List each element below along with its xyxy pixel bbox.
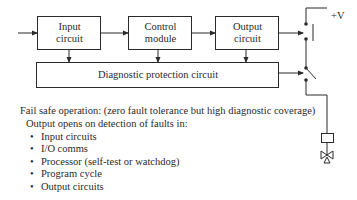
input-circuit-line2: circuit bbox=[38, 33, 101, 45]
input-circuit-label: Input circuit bbox=[38, 21, 101, 45]
contact-dot bbox=[304, 37, 308, 41]
output-circuit-line1: Output bbox=[216, 21, 279, 33]
solenoid-box bbox=[322, 134, 334, 143]
control-module-line1: Control bbox=[129, 21, 192, 33]
output-circuit-line2: circuit bbox=[216, 33, 279, 45]
fault-item: Processor (self-test or watchdog) bbox=[30, 156, 180, 169]
supply-label: +V bbox=[331, 10, 345, 22]
control-module-line2: module bbox=[129, 33, 192, 45]
supply-wire bbox=[306, 8, 327, 24]
valve-actuator bbox=[324, 157, 330, 163]
fail-safe-heading: Fail safe operation: (zero fault toleran… bbox=[20, 105, 315, 118]
fault-list: Input circuits I/O comms Processor (self… bbox=[30, 131, 180, 194]
fault-item: Input circuits bbox=[30, 131, 180, 144]
contact-dot bbox=[304, 66, 308, 70]
fault-item: Program cycle bbox=[30, 168, 180, 181]
control-module-label: Control module bbox=[129, 21, 192, 45]
load-wire bbox=[306, 80, 327, 155]
fault-subheading: Output opens on detection of faults in: bbox=[26, 118, 188, 131]
output-circuit-label: Output circuit bbox=[216, 21, 279, 45]
input-circuit-line1: Input bbox=[38, 21, 101, 33]
contact-dot bbox=[304, 78, 308, 82]
fault-item: I/O comms bbox=[30, 143, 180, 156]
diagnostic-switch-contact bbox=[306, 68, 316, 79]
diagnostic-protection-label: Diagnostic protection circuit bbox=[37, 69, 279, 81]
fault-item: Output circuits bbox=[30, 181, 180, 194]
contact-dot bbox=[304, 22, 308, 26]
